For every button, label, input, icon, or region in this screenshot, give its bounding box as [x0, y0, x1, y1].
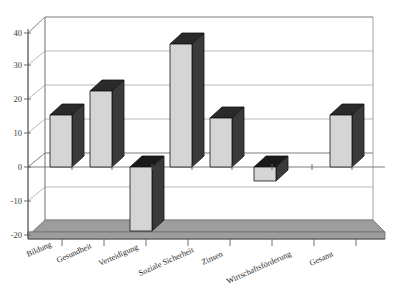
bar-gesundheit[interactable]: [90, 80, 124, 167]
bar-zinsen[interactable]: [210, 107, 244, 167]
y-tick-label: 0: [18, 162, 22, 172]
y-tick-labels: 40 30 20 10 0 -10 -20: [11, 28, 22, 240]
x-category-label-wirtschaftsfoerderung: Wirtschaftsförderung: [225, 249, 292, 286]
bar-chart-canvas: 40 30 20 10 0 -10 -20: [0, 0, 395, 301]
bar-wirtschaftsfoerderung[interactable]: [254, 156, 288, 181]
y-tick-label: -20: [11, 230, 22, 240]
bar-soziale-sicherheit[interactable]: [170, 33, 204, 167]
x-category-label-gesundheit: Gesundheit: [55, 241, 93, 265]
y-tick-label: 10: [14, 128, 23, 138]
left-wall: [28, 17, 45, 237]
x-category-label-bildung: Bildung: [25, 240, 53, 259]
bar-chart-container: 40 30 20 10 0 -10 -20: [0, 0, 395, 301]
y-tick-label: 40: [14, 28, 23, 38]
x-category-label-gesamt: Gesamt: [308, 249, 335, 268]
y-tick-label: 20: [14, 94, 23, 104]
floor-front-edge: [28, 232, 385, 239]
bar-verteidigung[interactable]: [130, 156, 164, 231]
x-category-label-soziale-sicherheit: Soziale Sicherheit: [137, 245, 196, 278]
bar-gesamt[interactable]: [330, 104, 364, 167]
x-category-labels: Bildung Gesundheit Verteidigung Soziale …: [25, 240, 335, 286]
x-category-label-verteidigung: Verteidigung: [97, 242, 139, 267]
y-tick-label: -10: [11, 196, 22, 206]
bar-bildung[interactable]: [50, 104, 84, 167]
y-tick-label: 30: [14, 60, 23, 70]
x-category-label-zinsen: Zinsen: [200, 250, 224, 267]
